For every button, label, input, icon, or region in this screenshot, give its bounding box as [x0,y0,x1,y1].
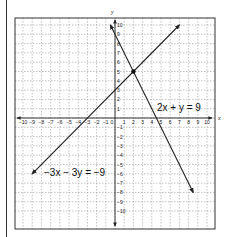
y-tick-label: 2 [117,96,120,102]
equation-label-1: 2x + y = 9 [157,102,201,113]
y-tick-label: −2 [117,134,123,140]
y-tick-label: 10 [117,22,123,28]
y-tick-label: −4 [117,152,123,158]
x-tick-label: 10 [204,119,210,125]
y-tick-label: 7 [117,50,120,56]
x-tick-label: −5 [66,119,72,125]
y-tick-label: −10 [117,208,126,214]
x-tick-label: 4 [150,119,153,125]
y-tick-label: 1 [117,106,120,112]
y-tick-label: −7 [117,180,123,186]
y-tick-label: 9 [117,31,120,37]
y-tick-label: −8 [117,189,123,195]
x-tick-label: 8 [187,119,190,125]
x-tick-label: −9 [29,119,35,125]
x-tick-label: −2 [94,119,100,125]
y-tick-label: 4 [117,78,120,84]
y-axis-label: y [110,9,114,15]
x-tick-label: 9 [196,119,199,125]
y-tick-label: 5 [117,69,120,75]
y-tick-label: −9 [117,199,123,205]
x-tick-label: −4 [75,119,81,125]
y-tick-label: −6 [117,171,123,177]
coordinate-plane: −10−9−8−7−6−5−4−3−2−10123456789101098765… [0,0,227,237]
x-tick-label: −1 [103,119,109,125]
x-tick-label: 0 [111,119,114,125]
y-tick-label: 6 [117,59,120,65]
x-tick-label: −6 [57,119,63,125]
x-tick-label: −8 [39,119,45,125]
y-tick-label: −5 [117,162,123,168]
x-tick-label: 7 [178,119,181,125]
x-axis-label: x [217,115,221,121]
y-tick-label: −3 [117,143,123,149]
y-tick-label: −1 [117,124,123,130]
x-tick-label: 2 [132,119,135,125]
x-tick-label: 5 [160,119,163,125]
x-tick-label: −7 [48,119,54,125]
x-tick-label: 1 [123,119,126,125]
x-tick-label: 3 [141,119,144,125]
intersection-point [131,69,135,73]
x-tick-label: 6 [169,119,172,125]
x-tick-label: −10 [19,119,28,125]
equation-label-2: −3x − 3y = −9 [44,167,106,178]
axes [17,20,212,226]
